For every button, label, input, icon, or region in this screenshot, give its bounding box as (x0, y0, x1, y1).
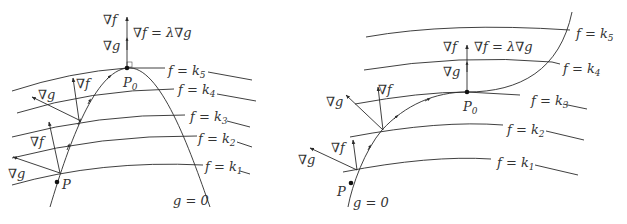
label-grad-f-low: ∇f (331, 140, 347, 155)
level-curve-k1 (12, 164, 203, 185)
point-P (55, 180, 60, 185)
label-grad-g-top: ∇g (103, 38, 120, 53)
point-P0 (125, 66, 130, 71)
label-k1: f = k1 (496, 155, 535, 172)
direction-arrow-icon (107, 76, 110, 79)
label-grad-f-mid: ∇f (76, 76, 92, 91)
label-grad-f-top: ∇f (103, 12, 119, 27)
label-P0: P0 (122, 75, 138, 92)
label-grad-g-mid: ∇g (326, 94, 343, 109)
label-grad-f-low: ∇f (30, 134, 46, 149)
label-condition: ∇f = λ∇g (133, 25, 192, 40)
label-k5: f = k5 (167, 63, 206, 80)
grad-f-arrow-icon (353, 140, 357, 170)
label-k3: f = k3 (189, 109, 228, 126)
level-curve-k4-tail (217, 94, 256, 101)
level-curve-k5-tail (208, 72, 252, 80)
label-k2: f = k2 (197, 131, 236, 148)
level-curve-k3-tail (227, 121, 250, 127)
point-P0 (465, 90, 470, 95)
label-grad-g-low: ∇g (298, 152, 315, 167)
lagrange-multiplier-diagram: ∇f ∇g ∇f = λ∇g P0 P ∇f ∇g ∇f ∇g f = k5 f… (0, 0, 627, 224)
label-grad-g-mid: ∇g (38, 87, 55, 102)
label-k2: f = k2 (506, 122, 545, 139)
label-condition: ∇f = λ∇g (474, 39, 533, 54)
level-curve-k2 (350, 124, 503, 137)
level-curve-k1 (343, 158, 491, 172)
label-P: P (61, 177, 71, 192)
direction-arrow-icon (394, 116, 397, 119)
label-P0: P0 (462, 99, 478, 116)
label-g0: g = 0 (173, 193, 209, 208)
level-curve-k2-tail (237, 142, 252, 147)
level-curve-k1-tail (535, 165, 578, 175)
label-grad-g-top: ∇g (443, 64, 460, 79)
label-k1: f = k1 (204, 159, 243, 176)
left-panel: ∇f ∇g ∇f = λ∇g P0 P ∇f ∇g ∇f ∇g f = k5 f… (8, 12, 256, 208)
label-grad-f-mid: ∇f (378, 82, 394, 97)
label-P: P (336, 184, 346, 199)
label-grad-g-low: ∇g (8, 166, 25, 181)
level-curve-k4-tail (552, 62, 560, 64)
label-k3: f = k3 (530, 93, 569, 110)
point-P (349, 181, 354, 186)
label-k5: f = k5 (575, 26, 614, 43)
label-k4: f = k4 (177, 82, 216, 99)
right-panel: ∇f ∇g ∇f = λ∇g P0 P ∇f ∇g ∇f ∇g f = k5 f… (298, 12, 614, 210)
level-curve-k2-tail (546, 131, 584, 140)
label-k4: f = k4 (562, 61, 601, 78)
constraint-curve-g0 (348, 12, 572, 207)
label-g0: g = 0 (353, 195, 389, 210)
level-curve-k5 (366, 27, 570, 37)
label-grad-f-top: ∇f (443, 39, 459, 54)
